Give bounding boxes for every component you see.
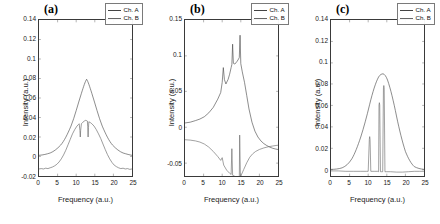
panel-c-series-ch-a [331,74,424,170]
panel-a-ytick-2: 0.02 [23,134,36,141]
panel-a-xtick-2: 10 [72,180,79,187]
panel-a-tickmarks [39,20,132,176]
panel-c-xtick-3: 15 [383,180,390,187]
panel-a-curves [39,20,132,176]
panel-a-ytick-5: 0.08 [23,75,36,82]
panel-a-ytick-0: -0.02 [21,174,36,181]
panel-b-legend-row-ch-b: Ch. B [254,14,285,22]
panel-b-ytick-3: 0.1 [173,52,182,59]
panel-b-curves [185,20,278,176]
panel-c-label: (c) [336,2,349,17]
panel-a-legend-label-ch-b: Ch. B [124,15,139,21]
panel-c-ytick-2: 0.04 [315,124,328,131]
figure-three-panel-spectra: (a) Intensity (a.u.) -0.02 0 0.02 0.04 0… [0,0,440,224]
panel-c-plot-area [330,19,425,177]
panel-c-legend-row-ch-a: Ch. A [400,6,431,14]
panel-c-ytick-1: 0.02 [315,146,328,153]
panel-c-legend: Ch. A Ch. B [397,3,435,25]
panel-b-series-ch-a [185,35,278,149]
panel-a-legend-row-ch-b: Ch. B [108,14,139,22]
panel-c-ytick-0: 0 [324,167,328,174]
panel-b-ytick-1: 0 [178,124,182,131]
panel-b-xtick-1: 5 [201,180,205,187]
panel-c: (c) Intensity (a.u.) 0 0.02 0.04 0.06 0.… [292,0,438,224]
panel-c-ytick-labels: 0 0.02 0.04 0.06 0.08 0.1 0.12 0.14 [292,19,328,177]
panel-a-ytick-6: 0.1 [27,55,36,62]
panel-b-ytick-labels: -0.05 0 0.05 0.1 0.15 [146,19,182,177]
panel-b-xtick-4: 20 [256,180,263,187]
panel-a-xtick-3: 15 [91,180,98,187]
panel-a-ytick-7: 0.12 [23,36,36,43]
legend-line-icon-ch-b [108,18,121,19]
panel-a-plot-area [38,19,133,177]
panel-c-xtick-5: 25 [421,180,428,187]
panel-c-legend-label-ch-a: Ch. A [416,7,431,13]
panel-a-ytick-3: 0.04 [23,115,36,122]
panel-b-series-ch-b [185,135,278,176]
panel-c-ytick-4: 0.08 [315,81,328,88]
panel-c-legend-row-ch-b: Ch. B [400,14,431,22]
panel-a-ytick-4: 0.06 [23,95,36,102]
panel-b-legend-row-ch-a: Ch. A [254,6,285,14]
panel-b-xtick-0: 0 [182,180,186,187]
panel-a-xtick-4: 20 [110,180,117,187]
panel-c-ytick-6: 0.12 [315,37,328,44]
panel-b-legend: Ch. A Ch. B [251,3,289,25]
panel-b-xtick-5: 25 [275,180,282,187]
legend-line-icon-ch-a [108,10,121,11]
panel-a-legend-row-ch-a: Ch. A [108,6,139,14]
legend-line-icon-ch-b [400,18,413,19]
panel-a: (a) Intensity (a.u.) -0.02 0 0.02 0.04 0… [0,0,146,224]
panel-b-legend-label-ch-b: Ch. B [270,15,285,21]
panel-c-xlabel: Frequency (a.u.) [330,195,425,204]
panel-c-ytick-7: 0.14 [315,16,328,23]
panel-c-xtick-4: 20 [402,180,409,187]
panel-b-ytick-2: 0.05 [169,88,182,95]
legend-line-icon-ch-a [254,10,267,11]
panel-c-series-ch-b [331,86,424,173]
panel-c-ytick-5: 0.1 [319,59,328,66]
panel-a-xtick-5: 25 [129,180,136,187]
panel-a-ytick-labels: -0.02 0 0.02 0.04 0.06 0.08 0.1 0.12 0.1… [0,19,36,177]
panel-c-ytick-3: 0.06 [315,102,328,109]
panel-a-xtick-1: 5 [55,180,59,187]
panel-a-xtick-0: 0 [36,180,40,187]
panel-b-ytick-0: -0.05 [167,161,182,168]
panel-c-legend-label-ch-b: Ch. B [416,15,431,21]
panel-b-label: (b) [190,2,205,17]
panel-c-curves [331,20,424,176]
panel-a-ytick-8: 0.14 [23,16,36,23]
panel-c-xtick-0: 0 [328,180,332,187]
panel-a-legend-label-ch-a: Ch. A [124,7,139,13]
panel-b-xtick-2: 10 [218,180,225,187]
panel-a-xlabel: Frequency (a.u.) [38,195,133,204]
panel-b: (b) Intensity (a.u.) -0.05 0 0.05 0.1 0.… [146,0,292,224]
panel-b-legend-label-ch-a: Ch. A [270,7,285,13]
panel-c-xtick-1: 5 [347,180,351,187]
panel-c-tickmarks [331,20,424,176]
legend-line-icon-ch-a [400,10,413,11]
panel-b-plot-area [184,19,279,177]
panel-b-ytick-4: 0.15 [169,16,182,23]
panel-a-series-ch-b [39,120,132,169]
panel-a-series-ch-a [39,79,132,155]
panel-a-label: (a) [44,2,58,17]
panel-b-xlabel: Frequency (a.u.) [184,195,279,204]
panel-a-ytick-1: 0 [32,154,36,161]
panel-c-xtick-2: 10 [364,180,371,187]
panel-a-legend: Ch. A Ch. B [105,3,143,25]
panel-b-xtick-3: 15 [237,180,244,187]
legend-line-icon-ch-b [254,18,267,19]
